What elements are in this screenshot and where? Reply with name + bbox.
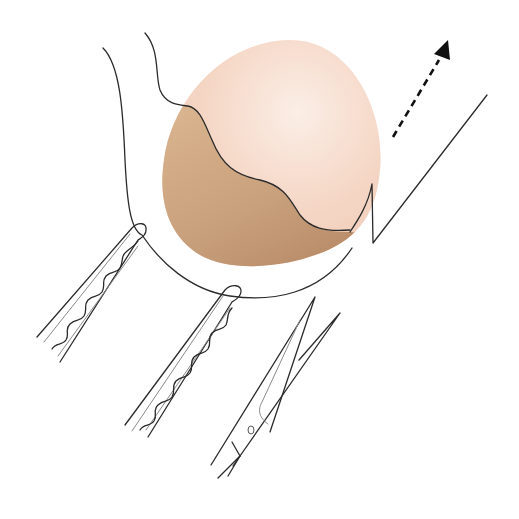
surgical-illustration (0, 0, 519, 519)
forceps-left (37, 224, 146, 362)
traction-arrow (393, 40, 450, 137)
scissors (211, 297, 340, 478)
mass (140, 40, 390, 300)
forceps-right (125, 286, 241, 437)
illustration-svg (0, 0, 519, 519)
